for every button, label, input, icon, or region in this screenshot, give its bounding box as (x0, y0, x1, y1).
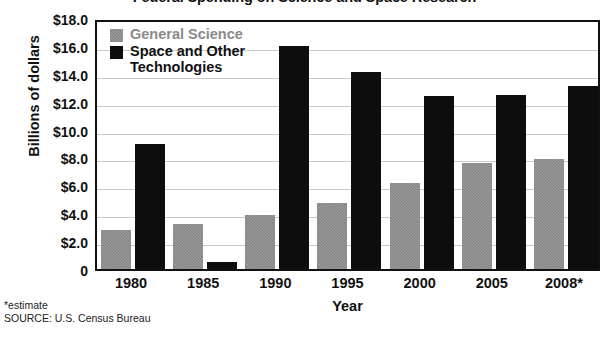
bar (317, 203, 347, 269)
legend-label: General Science (130, 26, 243, 42)
legend-item: Space and Other Technologies (110, 43, 245, 75)
bar (207, 262, 237, 269)
bar-group (241, 22, 313, 269)
legend-swatch-icon (110, 46, 123, 59)
bar (534, 159, 564, 269)
y-axis-tick: $4.0 (26, 207, 88, 223)
y-axis-tick: $2.0 (26, 235, 88, 251)
x-axis-tick: 2008* (545, 275, 583, 291)
footnote: *estimate (4, 299, 150, 312)
x-axis-tick: 2005 (476, 275, 508, 291)
x-axis-tick: 1980 (115, 275, 147, 291)
y-axis-tick: $14.0 (26, 68, 88, 84)
bar-group (386, 22, 458, 269)
bar-group (530, 22, 600, 269)
bar (279, 46, 309, 269)
chart-footnotes: *estimateSOURCE: U.S. Census Bureau (4, 299, 150, 325)
y-axis-tick: $12.0 (26, 96, 88, 112)
chart-figure: Federal Spending on Science and Space Re… (0, 0, 609, 342)
bar (496, 95, 526, 269)
y-axis-tick: $18.0 (26, 12, 88, 28)
bar (424, 96, 454, 269)
chart-legend: General ScienceSpace and Other Technolog… (110, 26, 245, 76)
x-axis-tick: 1990 (259, 275, 291, 291)
x-axis-tick: 1995 (331, 275, 363, 291)
bar (101, 230, 131, 269)
bar (245, 215, 275, 269)
y-axis-tick: $16.0 (26, 40, 88, 56)
bar (351, 72, 381, 269)
legend-item: General Science (110, 26, 245, 42)
x-axis-tick: 1985 (187, 275, 219, 291)
x-axis-tick-labels: 1980198519901995200020052008* (95, 275, 600, 295)
x-axis-title: Year (95, 298, 600, 314)
bar-group (313, 22, 385, 269)
x-axis-tick: 2000 (404, 275, 436, 291)
bar-group (458, 22, 530, 269)
chart-title: Federal Spending on Science and Space Re… (0, 0, 609, 6)
y-axis-tick: 0 (26, 263, 88, 279)
bar (135, 144, 165, 270)
bar (390, 183, 420, 269)
y-axis-tick: $8.0 (26, 151, 88, 167)
bar (568, 86, 598, 269)
y-axis-tick-labels: $18.0$16.0$14.0$12.0$10.0$8.0$6.0$4.0$2.… (26, 20, 88, 271)
bar (462, 163, 492, 269)
legend-label: Space and Other Technologies (130, 43, 245, 75)
legend-swatch-icon (110, 29, 123, 42)
footnote: SOURCE: U.S. Census Bureau (4, 312, 150, 325)
y-axis-tick: $6.0 (26, 179, 88, 195)
y-axis-tick: $10.0 (26, 124, 88, 140)
bar (173, 224, 203, 269)
